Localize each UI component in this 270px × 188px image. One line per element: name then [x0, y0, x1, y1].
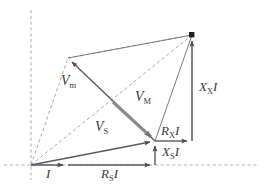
label-VS: VS: [95, 120, 108, 134]
meter-voltage-phasor-VM: [113, 102, 151, 137]
node-markers: [189, 32, 194, 37]
label-VM: VM: [135, 90, 151, 104]
label-I: I: [46, 167, 50, 180]
label-XxI: XXI: [199, 80, 217, 93]
label-Vm: Vm: [61, 74, 76, 88]
label-RxI: RXI: [161, 124, 179, 137]
phasor-diagram-figure: Vm VM VS I RSI XSI RXI XXI: [0, 0, 270, 188]
label-XsI: XSI: [162, 145, 179, 158]
vmm-resultant-node: [189, 32, 194, 37]
reference-axes: [4, 10, 258, 180]
source-voltage-phasor-Vs: [31, 142, 150, 165]
solid-vm-tip-to-top-right: [68, 35, 192, 58]
label-RsI: RSI: [101, 167, 118, 180]
